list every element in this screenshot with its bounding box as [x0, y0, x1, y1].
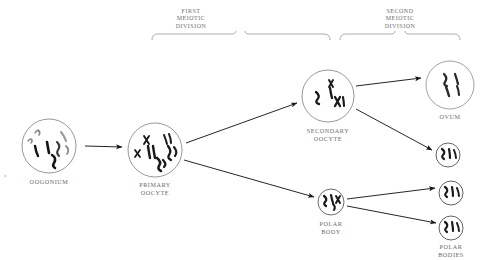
cell-label-oogonium: OOGONIUM: [4, 178, 94, 186]
cell-primary-oocyte[interactable]: [128, 123, 182, 177]
bracket-first-meiotic-division: [152, 31, 330, 40]
cell-polar-bodies[interactable]: [439, 216, 463, 240]
bracket-label-first-meiotic-division: FIRST MEIOTIC DIVISION: [141, 8, 241, 30]
arrow-polar-body-to-polar-body-middle: [347, 188, 435, 199]
oogenesis-diagram: FIRST MEIOTIC DIVISION SECOND MEIOTIC DI…: [0, 0, 496, 260]
cell-label-polar-body: POLAR BODY: [291, 220, 371, 235]
cell-label-secondary-oocyte: SECONDARY OOCYTE: [278, 127, 378, 142]
diagram-canvas: [0, 0, 496, 260]
cell-secondary-oocyte[interactable]: [302, 70, 354, 122]
arrow-oogonium-to-primary-oocyte: [85, 146, 122, 147]
cell-label-polar-bodies: POLAR BODIES: [411, 243, 491, 258]
cell-polar-body-middle[interactable]: [439, 181, 463, 205]
arrow-primary-to-polar-body: [184, 160, 314, 197]
cell-ovum[interactable]: [426, 61, 474, 109]
bracket-second-meiotic-division: [340, 31, 460, 40]
arrow-secondary-to-ovum: [356, 78, 421, 86]
cell-label-ovum: OVUM: [410, 113, 490, 121]
cell-polar-body[interactable]: [318, 189, 344, 215]
cell-polar-body-upper[interactable]: [436, 143, 460, 167]
bracket-label-second-meiotic-division: SECOND MEIOTIC DIVISION: [350, 8, 450, 30]
cell-label-primary-oocyte: PRIMARY OOCYTE: [110, 181, 200, 196]
cell-oogonium[interactable]: [22, 119, 76, 173]
